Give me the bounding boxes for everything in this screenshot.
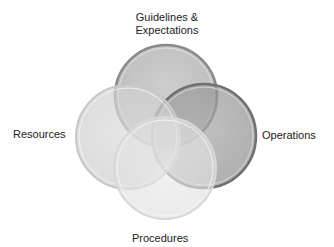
label-resources: Resources <box>13 128 66 141</box>
label-operations: Operations <box>262 129 316 142</box>
venn-circles <box>0 0 334 247</box>
label-procedures: Procedures <box>132 232 188 245</box>
circle-procedures <box>114 117 216 219</box>
label-guidelines-expectations: Guidelines & Expectations <box>117 11 217 37</box>
venn-diagram: Guidelines & Expectations Resources Oper… <box>0 0 334 247</box>
